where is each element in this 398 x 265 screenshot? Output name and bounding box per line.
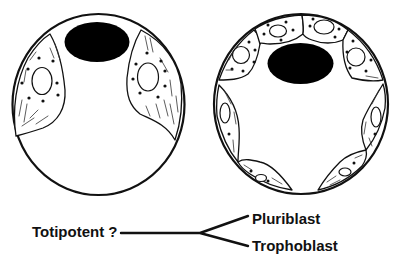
inner-cell-mass-right bbox=[268, 43, 334, 84]
trophoblast-label: Trophoblast bbox=[252, 237, 338, 254]
top-cell-3 bbox=[302, 15, 348, 43]
lineage-tree: Totipotent ? Pluriblast Trophoblast bbox=[32, 210, 338, 254]
totipotent-label: Totipotent ? bbox=[32, 223, 118, 240]
blastocyst-diagram: Totipotent ? Pluriblast Trophoblast bbox=[0, 0, 398, 265]
early-blastocyst-panel bbox=[13, 14, 185, 195]
top-cell-4 bbox=[343, 30, 383, 81]
cell-nucleus bbox=[138, 63, 159, 91]
cell-nucleus bbox=[32, 68, 52, 95]
lineage-branch-lines bbox=[121, 216, 248, 246]
late-blastocyst-panel bbox=[214, 14, 388, 194]
inner-cell-mass-left bbox=[65, 22, 130, 62]
pluriblast-label: Pluriblast bbox=[252, 210, 320, 227]
